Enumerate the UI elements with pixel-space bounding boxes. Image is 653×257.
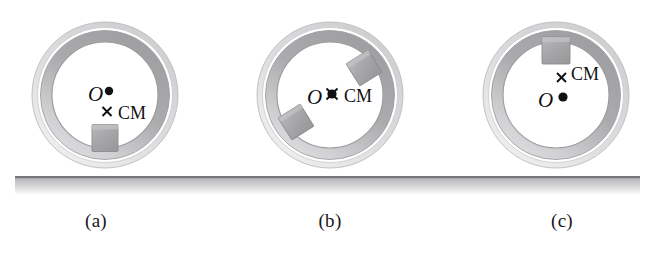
cm-label-b: CM bbox=[344, 86, 372, 106]
physics-figure: O CM bbox=[0, 0, 653, 257]
o-label-c: O bbox=[538, 88, 553, 112]
cm-label-a: CM bbox=[118, 103, 146, 123]
panel-label-b: (b) bbox=[290, 210, 370, 232]
center-dot-a bbox=[105, 87, 113, 95]
cm-label-c: CM bbox=[571, 64, 599, 84]
panel-a: O CM bbox=[32, 22, 178, 168]
panel-label-a: (a) bbox=[56, 210, 136, 232]
ground-surface bbox=[15, 176, 640, 195]
block-bottom-a bbox=[92, 125, 118, 152]
o-label-a: O bbox=[88, 82, 103, 106]
panel-c: O CM bbox=[483, 22, 629, 168]
panel-label-c: (c) bbox=[522, 210, 602, 232]
o-label-b: O bbox=[307, 85, 322, 109]
block-top-c bbox=[542, 37, 570, 64]
panel-b: O CM bbox=[257, 22, 403, 168]
center-dot-c bbox=[558, 92, 567, 101]
